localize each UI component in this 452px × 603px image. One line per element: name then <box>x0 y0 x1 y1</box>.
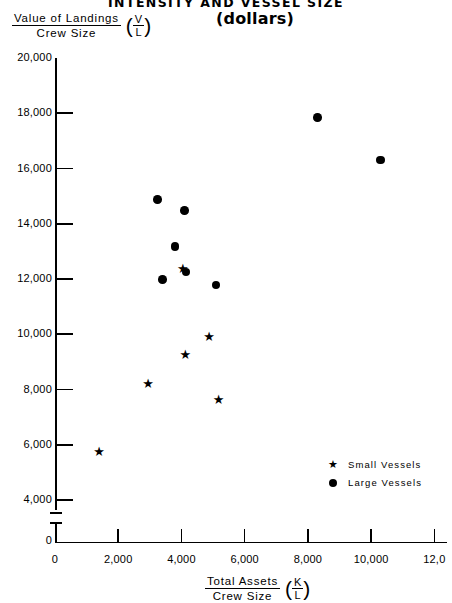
y-tick-label-4000: 4,000 <box>0 493 52 505</box>
x-axis-line <box>55 542 447 544</box>
legend-label: Large Vessels <box>342 477 422 488</box>
y-axis-break-mark-upper <box>50 512 62 514</box>
y-tick-18000 <box>56 112 73 114</box>
y-tick-8000 <box>56 389 73 391</box>
x-tick-label-6000: 6,000 <box>215 553 275 565</box>
legend-label: Small Vessels <box>342 459 421 470</box>
data-point-star: ★ <box>177 262 189 275</box>
x-tick-2000 <box>117 529 119 542</box>
legend-star-icon: ★ <box>324 459 342 470</box>
x-tick-label-4000: 4,000 <box>151 553 211 565</box>
x-tick-label-8000: 8,000 <box>278 553 338 565</box>
data-point-circle <box>376 156 385 165</box>
y-tick-4000 <box>56 499 73 501</box>
x-tick-label-2000: 2,000 <box>88 553 148 565</box>
data-point-star: ★ <box>213 393 225 406</box>
y-tick-label-8000: 8,000 <box>0 383 52 395</box>
y-tick-label-0: 0 <box>0 534 52 546</box>
data-point-circle <box>180 206 189 215</box>
x-tick-6000 <box>244 529 246 542</box>
x-tick-10000 <box>370 529 372 542</box>
data-point-circle <box>212 281 221 290</box>
x-tick-8000 <box>307 529 309 542</box>
x-tick-4000 <box>181 529 183 542</box>
y-tick-label-14000: 14,000 <box>0 217 52 229</box>
data-point-star: ★ <box>180 348 192 361</box>
legend-circle-icon <box>324 477 342 488</box>
y-tick-10000 <box>56 333 73 335</box>
data-point-circle <box>158 275 167 284</box>
y-tick-label-12000: 12,000 <box>0 272 52 284</box>
y-tick-14000 <box>56 223 73 225</box>
y-axis-break-mark-lower <box>50 522 62 524</box>
y-axis-line <box>55 58 57 510</box>
y-tick-label-6000: 6,000 <box>0 438 52 450</box>
x-tick-label-12000: 12,0 <box>404 553 452 565</box>
data-point-circle <box>153 195 162 204</box>
legend-item-star: ★Small Vessels <box>324 455 422 473</box>
data-point-star: ★ <box>203 330 215 343</box>
x-tick-label-10000: 10,000 <box>341 553 401 565</box>
x-tick-label-0: 0 <box>25 553 85 565</box>
legend: ★Small VesselsLarge Vessels <box>324 455 422 491</box>
data-point-circle <box>313 113 322 122</box>
legend-item-circle: Large Vessels <box>324 473 422 491</box>
y-tick-16000 <box>56 168 73 170</box>
x-tick-12000 <box>434 529 436 542</box>
data-point-star: ★ <box>142 377 154 390</box>
y-tick-12000 <box>56 278 73 280</box>
y-tick-label-20000: 20,000 <box>0 51 52 63</box>
data-point-star: ★ <box>93 445 105 458</box>
y-tick-label-16000: 16,000 <box>0 162 52 174</box>
y-axis-line-lower <box>55 522 57 543</box>
y-tick-label-10000: 10,000 <box>0 327 52 339</box>
scatter-plot: 20,00018,00016,00014,00012,00010,0008,00… <box>0 0 452 603</box>
y-tick-6000 <box>56 444 73 446</box>
data-point-circle <box>171 242 180 251</box>
y-tick-label-18000: 18,000 <box>0 106 52 118</box>
